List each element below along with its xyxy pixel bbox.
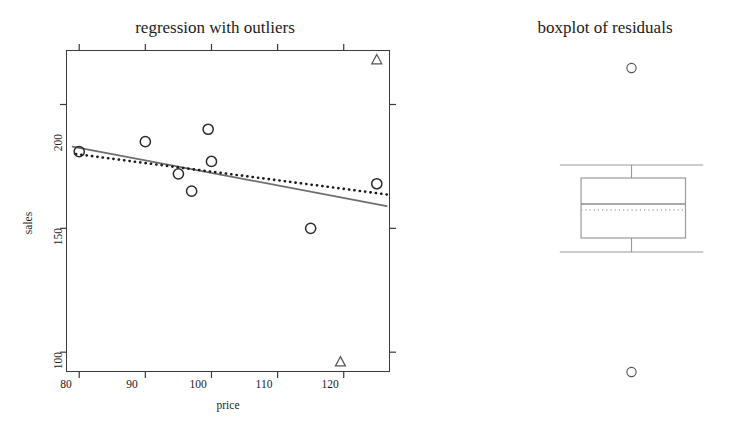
data-point-4 (203, 124, 213, 134)
data-point-5 (206, 156, 216, 166)
x-tick-label-80: 80 (60, 378, 72, 390)
data-point-1 (140, 137, 150, 147)
x-axis-title: price (217, 399, 240, 411)
x-tick-label-90: 90 (126, 378, 138, 390)
regression-chart-title: regression with outliers (0, 18, 430, 38)
x-tick-label-110: 110 (256, 378, 273, 390)
regression-panel: regression with outliers 80 90 100 110 1… (0, 0, 430, 428)
boxplot-outlier-0 (627, 63, 636, 72)
y-tick-label-100: 100 (52, 352, 64, 369)
regression-plot-area (66, 50, 390, 372)
data-point-6 (306, 223, 316, 233)
boxplot-panel (430, 0, 745, 428)
x-tick-label-120: 120 (321, 378, 338, 390)
boxplot-outlier-1 (627, 367, 636, 376)
x-tick-label-100: 100 (189, 378, 206, 390)
fit-line-ols-fit (73, 147, 387, 206)
box-body (581, 178, 685, 238)
y-tick-label-150: 150 (52, 228, 64, 245)
y-axis-title: sales (22, 212, 34, 234)
data-point-7 (372, 179, 382, 189)
y-tick-label-200: 200 (52, 134, 64, 151)
outlier-marker-0 (372, 55, 382, 64)
boxplot-plot-area (430, 0, 745, 428)
fit-line-robust-fit (76, 154, 390, 195)
outlier-marker-1 (335, 357, 345, 366)
boxplot-chart-title: boxplot of residuals (470, 18, 740, 38)
data-point-3 (187, 186, 197, 196)
figure-canvas: regression with outliers 80 90 100 110 1… (0, 0, 745, 428)
data-point-2 (173, 169, 183, 179)
